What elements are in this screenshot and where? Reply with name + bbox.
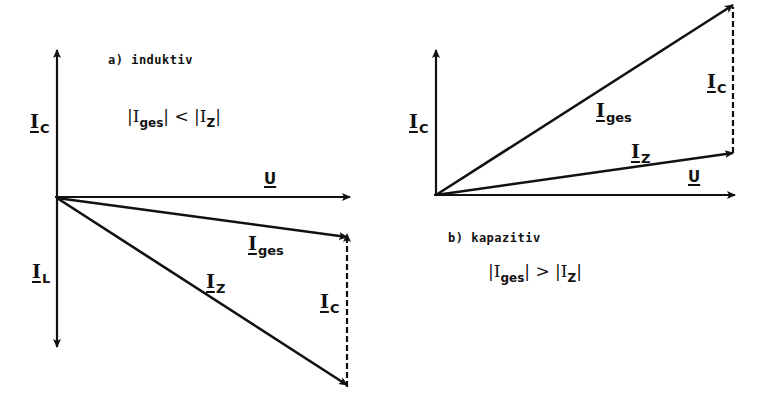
panel-a-il-axis-label: IL (32, 262, 50, 285)
subscript: C (419, 122, 429, 135)
panel-a-iges-vector (57, 198, 347, 237)
relation-right-subscript: Z (207, 117, 216, 129)
panel-b-title: b) kapazitiv (448, 232, 541, 244)
panel-a-iz-vector (57, 198, 347, 385)
relation-right-subscript: Z (568, 272, 577, 284)
symbol: I (409, 110, 418, 132)
subscript: Z (641, 152, 650, 165)
panel-a-vectors (55, 50, 350, 387)
relation-left-subscript: ges (139, 117, 163, 129)
panel-a-relation: |Iges| < |IZ| (127, 108, 221, 129)
subscript: C (40, 122, 50, 135)
panel-b-iz-label: IZ (631, 142, 650, 165)
relation-right-symbol: I (561, 261, 568, 281)
symbol: I (32, 260, 41, 282)
panel-a-title: a) induktiv (108, 54, 193, 66)
symbol: I (320, 290, 329, 312)
panel-a-ic-dashed-label: IC (320, 292, 339, 315)
relation-left-symbol: I (133, 106, 140, 126)
symbol: I (30, 110, 39, 132)
panel-a-u-label: U (264, 172, 276, 187)
subscript: C (717, 82, 727, 95)
panel-b-iges-vector (436, 5, 733, 195)
symbol: I (596, 99, 605, 121)
symbol: I (248, 232, 257, 254)
panel-a-ic-axis-label: IC (30, 112, 49, 135)
panel-b-ic-dashed-label: IC (707, 72, 726, 95)
symbol: I (206, 270, 215, 292)
subscript: L (42, 272, 50, 285)
panel-a-iges-label: Iges (248, 234, 284, 257)
relation-left-subscript: ges (500, 272, 524, 284)
panel-b-u-label: U (688, 170, 700, 185)
subscript: ges (606, 111, 632, 124)
relation-operator: > (535, 261, 549, 281)
subscript: Z (216, 282, 225, 295)
panel-b-relation: |Iges| > |IZ| (488, 263, 582, 284)
panel-b-ic-axis-label: IC (409, 112, 428, 135)
relation-right-symbol: I (200, 106, 207, 126)
panel-a-iz-label: IZ (206, 272, 225, 295)
symbol: I (707, 70, 716, 92)
symbol: I (631, 140, 640, 162)
relation-operator: < (174, 106, 188, 126)
panel-b-iges-label: Iges (596, 101, 632, 124)
subscript: ges (258, 244, 284, 257)
subscript: C (330, 302, 340, 315)
relation-left-symbol: I (494, 261, 501, 281)
